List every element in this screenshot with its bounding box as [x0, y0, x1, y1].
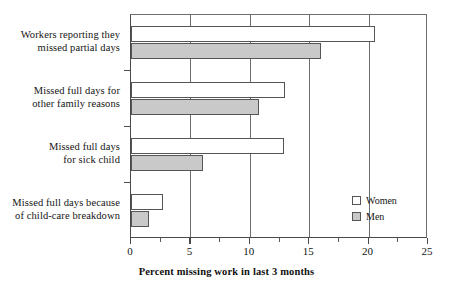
bar-women-group-1: [131, 82, 285, 98]
x-tick-25: [427, 238, 428, 244]
bar-men-group-0: [131, 43, 321, 59]
x-tick-0: [130, 238, 131, 244]
bar-men-group-3: [131, 211, 149, 227]
x-tick-label-25: 25: [422, 245, 433, 257]
x-minor-tick-22.5: [397, 238, 398, 242]
legend: Women Men: [352, 193, 397, 225]
bar-women-group-3: [131, 194, 163, 210]
x-tick-10: [249, 238, 250, 244]
legend-item-men: Men: [352, 209, 397, 223]
x-axis-title: Percent missing work in last 3 months: [0, 266, 453, 277]
bar-women-group-0: [131, 26, 375, 42]
category-label-1-line-2: other family reasons: [32, 98, 120, 111]
y-tick-3: [124, 182, 130, 183]
category-label-2: Missed full days for sick child: [49, 141, 120, 166]
x-minor-tick-2.5: [160, 238, 161, 242]
x-tick-label-15: 15: [303, 245, 314, 257]
x-tick-label-0: 0: [127, 245, 133, 257]
x-tick-label-5: 5: [187, 245, 193, 257]
legend-swatch-women-icon: [352, 196, 361, 205]
category-label-3-line-2: of child-care breakdown: [12, 210, 120, 223]
legend-swatch-men-icon: [352, 212, 361, 221]
x-tick-label-10: 10: [243, 245, 254, 257]
category-label-1: Missed full days for other family reason…: [32, 85, 120, 110]
x-minor-tick-7.5: [219, 238, 220, 242]
y-tick-2: [124, 126, 130, 127]
bar-women-group-2: [131, 138, 284, 154]
category-label-2-line-1: Missed full days: [49, 141, 120, 154]
legend-label-men: Men: [366, 211, 384, 222]
legend-item-women: Women: [352, 193, 397, 207]
bar-chart: Workers reporting they missed partial da…: [0, 0, 453, 292]
category-label-3-line-1: Missed full days because: [12, 197, 120, 210]
x-tick-20: [368, 238, 369, 244]
category-label-0-line-1: Workers reporting they: [21, 29, 120, 42]
bar-men-group-2: [131, 155, 203, 171]
x-tick-15: [308, 238, 309, 244]
x-minor-tick-17.5: [338, 238, 339, 242]
x-tick-5: [189, 238, 190, 244]
category-label-0-line-2: missed partial days: [21, 42, 120, 55]
bar-men-group-1: [131, 99, 259, 115]
category-label-3: Missed full days because of child-care b…: [12, 197, 120, 222]
category-label-2-line-2: for sick child: [49, 154, 120, 167]
category-label-0: Workers reporting they missed partial da…: [21, 29, 120, 54]
category-label-1-line-1: Missed full days for: [32, 85, 120, 98]
x-minor-tick-12.5: [279, 238, 280, 242]
legend-label-women: Women: [366, 195, 397, 206]
x-tick-label-20: 20: [362, 245, 373, 257]
y-tick-1: [124, 70, 130, 71]
